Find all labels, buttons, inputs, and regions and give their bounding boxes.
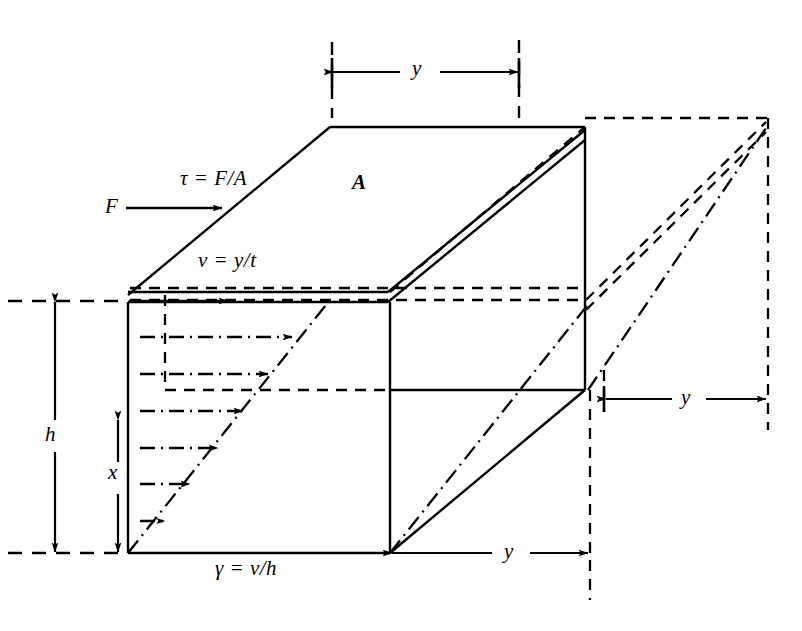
dim-top-label: y [412,58,421,79]
dim-bottom-label: y [504,541,513,562]
area-label: A [352,172,366,193]
shear-dashdot-lines [128,128,766,553]
shear-stress-formula: τ = F/A [180,168,247,189]
depth-label: x [108,462,117,483]
velocity-arrows-dashdot [140,337,292,521]
dim-top-extension-lines [332,40,519,118]
shear-diagram [0,0,802,631]
dim-right-label: y [681,387,690,408]
force-label: F [105,196,118,217]
dim-h [8,301,128,553]
diagram-canvas: τ = F/A F v = y/t A h x γ = v/h y y y [0,0,802,631]
dim-top-arrow [332,58,519,88]
velocity-formula: v = y/t [198,250,256,271]
height-label: h [45,424,56,445]
hidden-edges [130,118,768,600]
strain-rate-formula: γ = v/h [215,558,277,579]
